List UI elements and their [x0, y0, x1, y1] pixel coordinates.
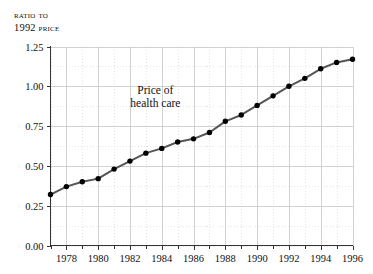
x-axis-tick-labels: 1978198019821984198619881990199219941996	[56, 253, 363, 264]
svg-text:0.50: 0.50	[25, 161, 43, 172]
svg-text:1994: 1994	[310, 253, 332, 264]
svg-text:Price of: Price of	[137, 84, 173, 96]
chart-figure: Ratio to 1992 price 0.000.250.500.751.00…	[0, 0, 373, 274]
svg-text:1982: 1982	[119, 253, 140, 264]
svg-text:1988: 1988	[215, 253, 236, 264]
grid-major-vertical	[67, 47, 354, 246]
y-axis-tick-labels: 0.000.250.500.751.001.25	[25, 42, 43, 252]
svg-text:1.25: 1.25	[25, 42, 43, 53]
svg-text:1984: 1984	[151, 253, 173, 264]
svg-text:0.75: 0.75	[25, 121, 43, 132]
svg-text:0.00: 0.00	[25, 241, 43, 252]
series-annotation: Price ofhealth care	[130, 84, 180, 109]
grid-major-horizontal	[51, 48, 353, 207]
svg-text:health care: health care	[130, 97, 180, 109]
svg-text:1996: 1996	[342, 253, 363, 264]
svg-text:1992: 1992	[278, 253, 299, 264]
svg-text:0.25: 0.25	[25, 201, 43, 212]
line-chart-plot: 0.000.250.500.751.001.25 197819801982198…	[0, 0, 373, 274]
x-axis-ticks	[52, 246, 354, 251]
svg-text:1986: 1986	[183, 253, 204, 264]
svg-text:1978: 1978	[56, 253, 77, 264]
svg-text:1980: 1980	[88, 253, 109, 264]
svg-text:1.00: 1.00	[25, 81, 43, 92]
svg-text:1990: 1990	[247, 253, 268, 264]
